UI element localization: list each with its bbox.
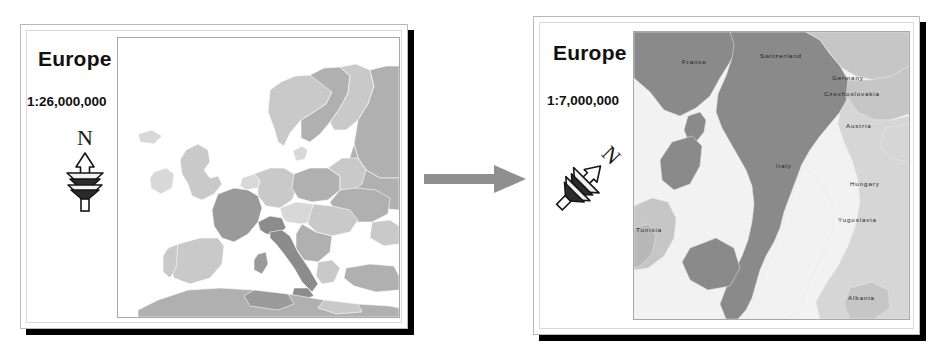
north-arrow-icon: N <box>57 123 113 213</box>
map-label-italy: Italy <box>776 162 792 169</box>
svg-text:N: N <box>77 125 93 150</box>
map-scale-text: 1:26,000,000 <box>27 94 107 109</box>
map-canvas-overview[interactable] <box>117 37 400 318</box>
map-label-albania: Albania <box>848 294 875 301</box>
map-label-germany: Germany <box>832 74 864 81</box>
panel-sheet: Europe 1:26,000,000 N <box>20 24 408 329</box>
page-title: Europe <box>553 41 627 65</box>
transition-arrow-icon <box>424 162 528 196</box>
map-label-france: France <box>682 58 707 65</box>
europe-overview-svg <box>118 38 399 317</box>
map-label-czechoslovakia: Czechoslovakia <box>824 90 880 97</box>
map-scale-text: 1:7,000,000 <box>547 93 619 108</box>
map-label-austria: Austria <box>846 122 872 129</box>
page-title: Europe <box>38 47 112 71</box>
map-label-hungary: Hungary <box>850 180 880 187</box>
map-canvas-detail[interactable]: France Switzerland Germany Czechoslovaki… <box>633 31 910 320</box>
map-label-yugoslavia: Yugoslavia <box>838 216 877 223</box>
italy-detail-svg: France Switzerland Germany Czechoslovaki… <box>634 32 909 319</box>
panel-sheet: Europe 1:7,000,000 N <box>533 16 920 335</box>
map-panel-detail[interactable]: Europe 1:7,000,000 N <box>533 16 920 335</box>
map-label-tunisia: Tunisia <box>636 226 662 233</box>
svg-text:N: N <box>597 141 626 170</box>
map-label-switzerland: Switzerland <box>760 52 802 59</box>
map-panel-overview[interactable]: Europe 1:26,000,000 N <box>20 24 408 329</box>
north-arrow-icon: N <box>546 137 638 229</box>
